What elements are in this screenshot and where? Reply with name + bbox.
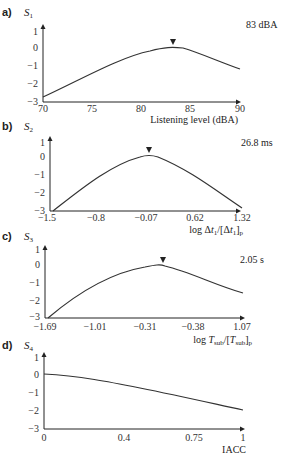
svg-text:−0.8: −0.8 [87, 212, 105, 223]
y-ticks: 1 0 −1 −2 −3 [28, 352, 39, 434]
y-axis-label: S1 [24, 6, 34, 20]
x-ticks: −1.5 −0.8 −0.07 0.62 1.32 [38, 212, 251, 223]
curve [48, 265, 243, 318]
svg-text:−1: −1 [27, 60, 38, 71]
svg-text:0.4: 0.4 [118, 432, 131, 443]
svg-text:1: 1 [33, 26, 38, 37]
peak-annotation: 26.8 ms [241, 137, 273, 148]
y-ticks: 1 0 −1 −2 −3 [34, 137, 45, 216]
svg-text:−3: −3 [27, 96, 38, 107]
svg-text:−2: −2 [27, 78, 38, 89]
svg-text:0: 0 [35, 259, 40, 270]
svg-text:−2: −2 [28, 405, 39, 416]
svg-text:−1: −1 [34, 169, 45, 180]
svg-text:80: 80 [136, 103, 146, 114]
x-ticks: 0 0.4 0.75 1 [42, 432, 246, 443]
peak-annotation: 83 dBA [246, 19, 278, 30]
svg-text:−1: −1 [28, 387, 39, 398]
panel-letter: b) [2, 120, 13, 132]
panel-c: c) S3 1 0 −1 −2 −3 −1.69 −1.01 −0.31 −0.… [2, 230, 264, 347]
y-axis-label: S3 [24, 230, 34, 244]
svg-text:0: 0 [33, 42, 38, 53]
svg-text:90: 90 [235, 103, 245, 114]
panel-letter: a) [2, 6, 12, 18]
svg-text:70: 70 [38, 103, 48, 114]
x-axis-label: log Tsub/[Tsub]p [193, 334, 252, 347]
svg-text:1.07: 1.07 [233, 321, 251, 332]
svg-text:85: 85 [185, 103, 195, 114]
peak-marker-icon [146, 147, 152, 153]
svg-text:0: 0 [34, 369, 39, 380]
svg-text:−1.69: −1.69 [33, 321, 56, 332]
y-ticks: 1 0 −1 −2 −3 [29, 244, 40, 322]
peak-marker-icon [170, 39, 176, 45]
x-ticks: 70 75 80 85 90 [38, 103, 245, 114]
panel-d: d) S4 1 0 −1 −2 −3 0 0.4 0.75 1 IACC [2, 339, 246, 455]
svg-text:−0.07: −0.07 [134, 212, 157, 223]
svg-text:0.75: 0.75 [185, 432, 203, 443]
y-axis-label: S2 [24, 120, 34, 134]
svg-text:−1: −1 [29, 277, 40, 288]
peak-marker-icon [160, 257, 166, 263]
svg-text:1: 1 [40, 137, 45, 148]
x-ticks: −1.69 −1.01 −0.31 −0.38 1.07 [33, 321, 250, 332]
svg-text:−2: −2 [29, 295, 40, 306]
panel-b: b) S2 1 0 −1 −2 −3 −1.5 −0.8 −0.07 0.62 … [2, 120, 273, 237]
peak-annotation: 2.05 s [240, 254, 264, 265]
svg-text:75: 75 [87, 103, 97, 114]
curve [44, 374, 243, 410]
svg-text:1: 1 [34, 352, 39, 363]
x-axis-label: Listening level (dBA) [150, 114, 238, 126]
y-ticks: 1 0 −1 −2 −3 [27, 26, 38, 107]
curve [43, 47, 240, 97]
curve [53, 156, 242, 212]
svg-text:1: 1 [241, 432, 246, 443]
svg-text:−1.5: −1.5 [38, 212, 56, 223]
svg-text:−0.38: −0.38 [181, 321, 204, 332]
svg-text:0: 0 [42, 432, 47, 443]
figure: a) S1 1 0 −1 −2 −3 70 75 80 85 90 Listen… [0, 0, 293, 461]
svg-text:−1.01: −1.01 [83, 321, 106, 332]
panel-letter: d) [2, 339, 13, 351]
svg-text:1.32: 1.32 [233, 212, 251, 223]
svg-text:−0.31: −0.31 [133, 321, 156, 332]
svg-text:0.62: 0.62 [186, 212, 204, 223]
y-axis-label: S4 [24, 339, 34, 353]
svg-text:−2: −2 [34, 187, 45, 198]
svg-text:−3: −3 [28, 423, 39, 434]
svg-text:0: 0 [40, 151, 45, 162]
panel-a: a) S1 1 0 −1 −2 −3 70 75 80 85 90 Listen… [2, 6, 278, 126]
x-axis-label: log Δt1/[Δt1]p [189, 224, 243, 237]
panel-letter: c) [2, 230, 12, 242]
x-axis-label: IACC [222, 444, 246, 455]
svg-text:1: 1 [35, 244, 40, 255]
